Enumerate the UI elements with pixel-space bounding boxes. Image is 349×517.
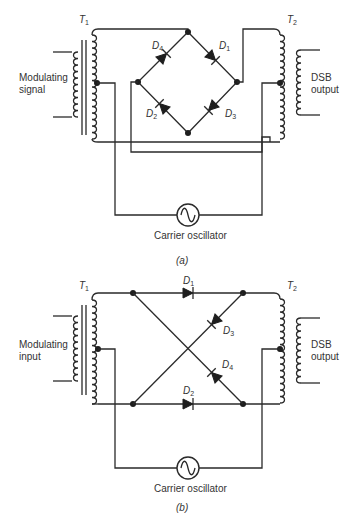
output-label-a: DSBoutput bbox=[311, 72, 339, 96]
input-label-b: Modulatinginput bbox=[19, 339, 68, 363]
d4-label-b: D4 bbox=[222, 359, 233, 374]
t1-label-a: T1 bbox=[79, 14, 89, 29]
d2-label-b: D2 bbox=[183, 385, 194, 400]
input-label-a: Modulatingsignal bbox=[19, 72, 68, 96]
t2-primary-coil bbox=[280, 35, 285, 139]
diagram-b bbox=[53, 287, 320, 479]
t1-label-b: T1 bbox=[79, 280, 89, 295]
t1-core-b bbox=[82, 305, 86, 395]
output-label-b: DSBoutput bbox=[311, 339, 339, 363]
oscillator-label-b: Carrier oscillator bbox=[154, 483, 227, 495]
d4-label-a: D4 bbox=[152, 40, 163, 55]
carrier-oscillator-a bbox=[177, 204, 199, 226]
d1-label-a: D1 bbox=[219, 40, 230, 55]
diagram-a bbox=[53, 29, 320, 226]
t2-label-a: T2 bbox=[287, 14, 297, 29]
d3-label-a: D3 bbox=[225, 108, 236, 123]
d3-label-b: D3 bbox=[223, 325, 234, 340]
d1-label-b: D1 bbox=[183, 275, 194, 290]
caption-a: (a) bbox=[176, 255, 188, 266]
t2-label-b: T2 bbox=[287, 280, 297, 295]
carrier-oscillator-b bbox=[177, 457, 199, 479]
t1-core bbox=[82, 40, 86, 135]
d2-label-a: D2 bbox=[146, 108, 157, 123]
caption-b: (b) bbox=[176, 502, 188, 513]
oscillator-label-a: Carrier oscillator bbox=[154, 230, 227, 242]
